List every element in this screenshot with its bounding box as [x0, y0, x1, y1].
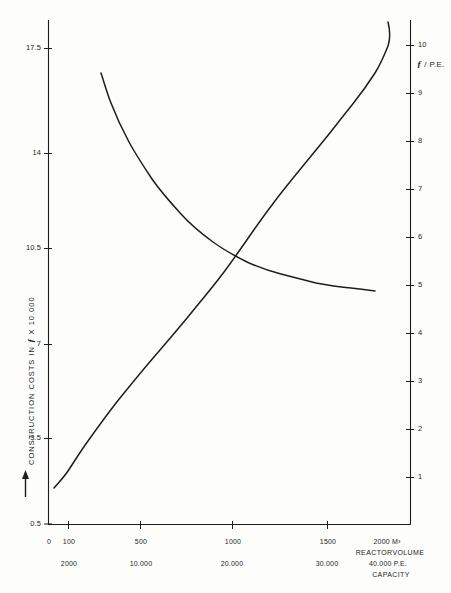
up-arrow-icon: [22, 470, 29, 497]
left-axis-title-text: CONSTRUCTION COSTS IN: [27, 346, 36, 465]
secondary-axis-tick-label: 2000: [51, 560, 87, 567]
guilder-symbol-icon: ƒ: [417, 59, 422, 69]
left-axis-title: CONSTRUCTION COSTS IN ƒ X 10.000: [27, 296, 36, 465]
right-axis-tick-label: 9: [418, 89, 422, 97]
chart-plot-area: [0, 0, 451, 593]
bottom-axis-unit: M³: [392, 538, 401, 545]
bottom-axis-tick-label: 1500: [314, 538, 342, 545]
left-axis-title-suffix: X 10.000: [27, 296, 36, 334]
bottom-axis-tick-label: 100: [58, 538, 80, 545]
right-axis-tick-label: 2: [418, 425, 422, 433]
right-axis-tick-label: 7: [418, 185, 422, 193]
bottom-axis-caption: REACTORVOLUME: [345, 549, 435, 556]
right-axis-tick-label: 5: [418, 281, 422, 289]
right-axis-tick-label: 6: [418, 233, 422, 241]
secondary-axis-tick-label: 10.000: [123, 560, 159, 567]
right-axis-title-text: / P.E.: [424, 60, 444, 69]
bottom-axis-tick-label: 1000: [219, 538, 247, 545]
right-axis-tick-label: 3: [418, 377, 422, 385]
chart-figure: 17.5 14 10.5 7 3.5 0.5 CONSTRUCTION COST…: [0, 0, 451, 593]
secondary-axis-tick-label: 30.000: [309, 560, 345, 567]
left-axis-tick-label: 14: [14, 149, 41, 157]
secondary-axis-unit: P.E.: [394, 560, 407, 567]
right-axis-tick-label: 4: [418, 329, 422, 337]
series-cost-per-pe-curve: [101, 73, 375, 291]
right-axis-tick-label: 8: [418, 137, 422, 145]
secondary-axis-tick-label: 20.000: [214, 560, 250, 567]
left-axis-tick-label: 10.5: [14, 244, 41, 252]
bottom-axis-tick-value: 2000: [373, 538, 389, 545]
secondary-axis-tick-value: 40.000: [369, 560, 392, 567]
left-axis-tick-label: 0.5: [14, 520, 41, 528]
series-construction-costs-curve: [54, 22, 390, 488]
bottom-axis-tick-label: 500: [129, 538, 153, 545]
secondary-axis-tick-label-last: 40.000 P.E.: [357, 560, 419, 567]
guilder-symbol-icon: ƒ: [26, 337, 36, 343]
right-axis-tick-label: 1: [418, 473, 422, 481]
bottom-axis-tick-label-last: 2000 M³: [362, 538, 412, 545]
bottom-axis-tick-label: 0: [40, 538, 58, 545]
secondary-axis-caption: CAPACITY: [360, 571, 422, 578]
right-axis-tick-label: 10: [418, 41, 427, 49]
left-axis-tick-label: 17.5: [14, 44, 41, 52]
right-axis-title: ƒ / P.E.: [417, 60, 445, 69]
